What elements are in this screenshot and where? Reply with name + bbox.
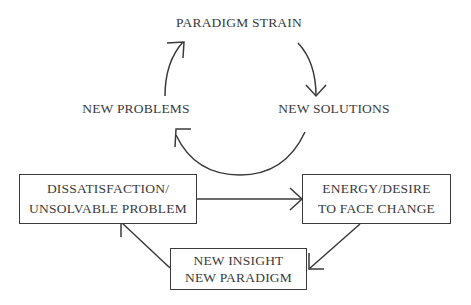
node-energy-line2: TO FACE CHANGE [318,199,435,219]
node-insight-line1: NEW INSIGHT [193,252,283,269]
node-insight: NEW INSIGHT NEW PARADIGM [170,248,307,290]
node-insight-line2: NEW PARADIGM [185,269,292,286]
arrow-problems-to-strain [165,42,183,96]
node-dissatisfaction-line1: DISSATISFACTION/ [47,179,169,199]
node-paradigm-strain: PARADIGM STRAIN [174,16,304,30]
arrow-insight-to-dissatisfaction [121,222,170,268]
node-energy: ENERGY/DESIRE TO FACE CHANGE [302,174,451,224]
node-new-solutions: NEW SOLUTIONS [273,102,395,116]
node-dissatisfaction-line2: UNSOLVABLE PROBLEM [29,199,187,219]
node-dissatisfaction: DISSATISFACTION/ UNSOLVABLE PROBLEM [19,174,197,224]
node-energy-line1: ENERGY/DESIRE [322,179,430,199]
node-new-problems: NEW PROBLEMS [77,102,195,116]
arrow-solutions-to-problems [176,132,305,175]
arrow-strain-to-solutions [298,43,316,96]
arrow-energy-to-insight [309,224,360,269]
